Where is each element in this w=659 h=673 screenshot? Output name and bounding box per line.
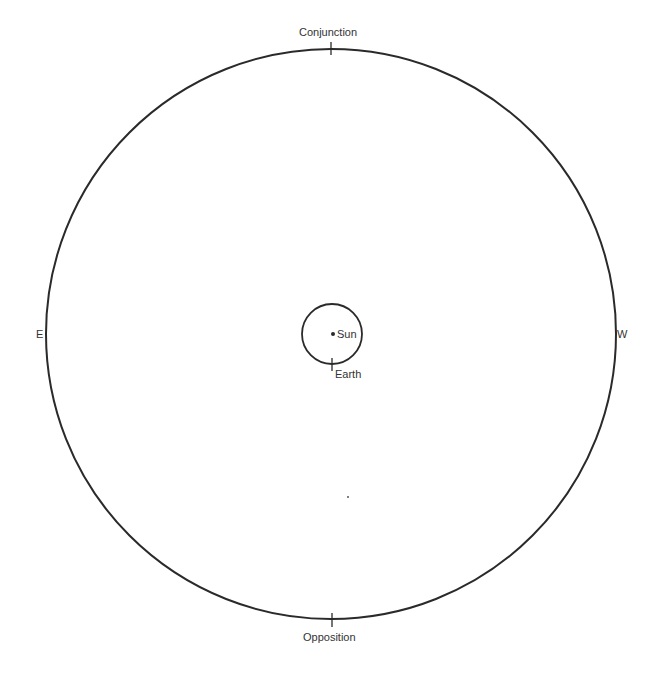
east-label: E <box>36 328 43 341</box>
orbit-diagram <box>0 0 659 673</box>
opposition-label: Opposition <box>303 631 356 644</box>
sun-dot <box>331 332 335 336</box>
west-label: W <box>617 328 627 341</box>
earth-label: Earth <box>335 368 361 381</box>
sun-label: Sun <box>337 328 357 341</box>
conjunction-label: Conjunction <box>299 26 357 39</box>
stray-point <box>347 496 349 498</box>
